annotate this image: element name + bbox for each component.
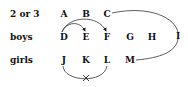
node-j: J: [59, 55, 69, 65]
node-g: G: [125, 32, 135, 42]
seating-diagram: 2 or 3 boys girls A B C D E F G H I J K …: [0, 0, 188, 87]
arc-c-i: [112, 11, 178, 33]
node-i: I: [173, 31, 183, 41]
x-mark-icon: [83, 75, 89, 81]
node-c: C: [102, 9, 112, 19]
arc-i-m: [136, 39, 178, 60]
node-k: K: [81, 55, 91, 65]
node-d: D: [59, 32, 69, 42]
node-l: L: [102, 55, 112, 65]
node-h: H: [147, 32, 157, 42]
arrow-d-f: [62, 19, 106, 32]
row-label-girls: girls: [10, 55, 33, 65]
arrow-d-e: [62, 24, 85, 32]
node-e: E: [81, 32, 91, 42]
row-label-boys: boys: [10, 32, 33, 42]
node-a: A: [59, 9, 69, 19]
row-label-2-or-3: 2 or 3: [10, 9, 40, 19]
node-f: F: [102, 32, 112, 42]
node-m: M: [125, 55, 135, 65]
node-b: B: [81, 9, 91, 19]
